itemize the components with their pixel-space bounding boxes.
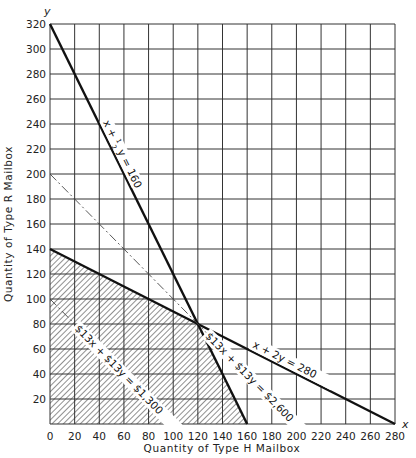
x-tick-label: 40	[93, 430, 106, 442]
y-tick-label: 140	[26, 243, 46, 255]
y-tick-label: 220	[26, 143, 46, 155]
x-tick-label: 100	[163, 430, 183, 442]
y-axis-letter: y	[43, 5, 51, 18]
x-tick-label: 60	[117, 430, 130, 442]
x-tick-label: 280	[385, 430, 405, 442]
x-tick-label: 80	[142, 430, 155, 442]
chart: x + 1 2 y = 160 x + 2y = 280 $13x + $13y…	[0, 0, 416, 458]
x-tick-label: 140	[212, 430, 232, 442]
x-axis-letter: x	[401, 418, 409, 431]
y-tick-label: 200	[26, 168, 46, 180]
x-tick-label: 260	[360, 430, 380, 442]
x-tick-label: 200	[286, 430, 306, 442]
y-tick-label: 280	[26, 68, 46, 80]
x-tick-label: 160	[237, 430, 257, 442]
x-axis-title: Quantity of Type H Mailbox	[144, 442, 301, 454]
y-tick-label: 240	[26, 118, 46, 130]
svg-text:x + 1 2: x + 1 2 y = 160	[98, 116, 148, 191]
label-constraint-1: x + 1 2 y = 160	[98, 114, 149, 191]
y-tick-label: 320	[26, 18, 46, 30]
y-tick-label: 100	[26, 293, 46, 305]
x-tick-label: 180	[262, 430, 282, 442]
y-tick-label: 300	[26, 43, 46, 55]
x-tick-label: 0	[47, 430, 54, 442]
y-tick-label: 260	[26, 93, 46, 105]
y-tick-label: 80	[33, 318, 46, 330]
y-tick-label: 120	[26, 268, 46, 280]
y-tick-label: 180	[26, 193, 46, 205]
y-tick-label: 20	[33, 393, 46, 405]
y-axis-title: Quantity of Type R Mailbox	[2, 146, 14, 302]
y-tick-label: 160	[26, 218, 46, 230]
y-tick-label: 60	[33, 343, 46, 355]
x-tick-label: 220	[311, 430, 331, 442]
y-tick-label: 40	[33, 368, 46, 380]
x-tick-label: 20	[68, 430, 81, 442]
x-tick-label: 120	[188, 430, 208, 442]
x-tick-label: 240	[336, 430, 356, 442]
